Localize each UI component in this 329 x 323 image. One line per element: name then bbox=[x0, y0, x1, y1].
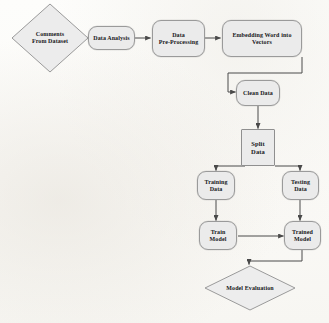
node-label-line2: Pre-Processing bbox=[157, 39, 201, 46]
node-model-evaluation[interactable]: Model Evaluation bbox=[204, 265, 296, 311]
node-label-line1: Embedding Word into bbox=[230, 32, 293, 39]
node-training-data[interactable]: Training Data bbox=[197, 171, 235, 200]
flowchart-canvas: Comments From Dataset Data Analysis Data… bbox=[0, 0, 329, 323]
node-label-line1: Trained bbox=[290, 229, 315, 236]
node-label-line1: Testing bbox=[289, 179, 312, 186]
connector-split-to-training bbox=[216, 166, 245, 171]
node-label-line1: Split bbox=[249, 140, 267, 147]
node-trained-model[interactable]: Trained Model bbox=[284, 221, 321, 250]
node-embedding-word-into-vectors[interactable]: Embedding Word into Vectors bbox=[222, 20, 302, 57]
node-label-line1: Clean Data bbox=[241, 90, 275, 97]
node-label-line2: From Dataset bbox=[30, 38, 70, 45]
node-split-data[interactable]: Split Data bbox=[241, 129, 275, 166]
node-label-line1: Model Evaluation bbox=[224, 285, 275, 292]
node-train-model[interactable]: Train Model bbox=[199, 221, 237, 250]
connector-trained-model-to-model-evaluation bbox=[249, 250, 302, 265]
node-label-line2: Data bbox=[249, 148, 267, 155]
node-data-analysis[interactable]: Data Analysis bbox=[88, 26, 135, 50]
node-testing-data[interactable]: Testing Data bbox=[282, 171, 319, 200]
node-clean-data[interactable]: Clean Data bbox=[236, 80, 280, 106]
node-label-line1: Comments bbox=[30, 31, 70, 38]
node-label-line1: Data Analysis bbox=[91, 35, 131, 42]
node-label-line2: Vectors bbox=[230, 39, 293, 46]
node-label-line2: Data bbox=[202, 186, 229, 193]
node-label-line2: Data bbox=[289, 186, 312, 193]
connector-split-to-testing bbox=[275, 166, 300, 171]
node-data-pre-processing[interactable]: Data Pre-Processing bbox=[152, 20, 205, 57]
node-label-line1: Training bbox=[202, 179, 229, 186]
node-label-line2: Model bbox=[290, 236, 315, 243]
node-label-line1: Train bbox=[208, 229, 229, 236]
node-comments-from-dataset[interactable]: Comments From Dataset bbox=[11, 3, 89, 73]
node-label-line2: Model bbox=[208, 236, 229, 243]
node-label-line1: Data bbox=[157, 32, 201, 39]
